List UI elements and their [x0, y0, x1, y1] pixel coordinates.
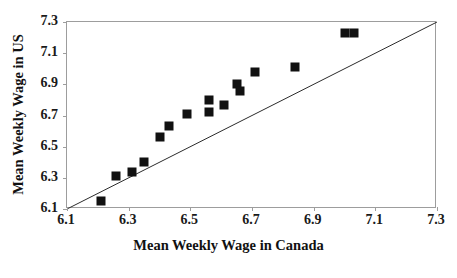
data-point	[220, 100, 229, 109]
data-point	[164, 122, 173, 131]
y-tick-mark	[63, 116, 67, 117]
x-tick-mark	[67, 207, 68, 211]
y-tick-mark	[63, 84, 67, 85]
plot-area	[66, 21, 436, 208]
y-tick-mark	[63, 53, 67, 54]
data-point	[251, 67, 260, 76]
data-point	[291, 63, 300, 72]
y-axis-title: Mean Weekly Wage in US	[10, 15, 27, 215]
x-tick-label: 6.5	[181, 212, 199, 228]
data-point	[349, 28, 358, 37]
data-point	[96, 197, 105, 206]
x-tick-label: 6.1	[57, 212, 75, 228]
data-point	[140, 158, 149, 167]
scatter-chart: 6.16.36.56.76.97.17.3 6.16.36.56.76.97.1…	[0, 0, 457, 278]
y-tick-label: 7.3	[41, 13, 59, 29]
data-point	[155, 133, 164, 142]
reference-line-45deg	[67, 22, 437, 209]
x-tick-label: 6.3	[119, 212, 137, 228]
data-point	[127, 167, 136, 176]
y-tick-label: 6.3	[41, 169, 59, 185]
y-tick-mark	[63, 22, 67, 23]
x-axis-title: Mean Weekly Wage in Canada	[0, 237, 457, 254]
data-point	[112, 172, 121, 181]
y-tick-label: 7.1	[41, 44, 59, 60]
x-tick-mark	[252, 207, 253, 211]
x-tick-mark	[375, 207, 376, 211]
y-tick-mark	[63, 209, 67, 210]
data-point	[340, 28, 349, 37]
y-tick-label: 6.1	[41, 200, 59, 216]
data-point	[183, 109, 192, 118]
x-tick-label: 6.9	[304, 212, 322, 228]
x-tick-mark	[190, 207, 191, 211]
data-point	[204, 95, 213, 104]
y-tick-mark	[63, 147, 67, 148]
x-tick-label: 6.7	[242, 212, 260, 228]
y-tick-mark	[63, 178, 67, 179]
x-tick-mark	[437, 207, 438, 211]
x-tick-mark	[314, 207, 315, 211]
x-tick-mark	[129, 207, 130, 211]
x-tick-label: 7.1	[366, 212, 384, 228]
y-tick-label: 6.5	[41, 138, 59, 154]
data-point	[204, 108, 213, 117]
x-tick-label: 7.3	[427, 212, 445, 228]
data-point	[235, 86, 244, 95]
y-tick-label: 6.7	[41, 107, 59, 123]
y-tick-label: 6.9	[41, 75, 59, 91]
